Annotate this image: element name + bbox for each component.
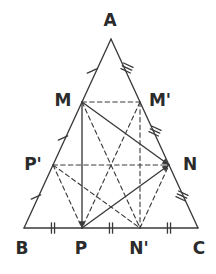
tick-Pprime-B-stroke xyxy=(31,195,40,199)
vertex-label-M-prime: M' xyxy=(149,92,171,109)
diagram-canvas xyxy=(0,0,216,274)
vertex-label-M: M xyxy=(55,92,72,109)
vertex-label-B: B xyxy=(16,240,29,257)
vertex-label-A: A xyxy=(103,12,116,29)
vertex-label-N: N xyxy=(183,156,197,173)
tick-N-C xyxy=(176,191,188,201)
vertex-label-C: C xyxy=(193,240,205,257)
vertex-label-P: P xyxy=(75,240,87,257)
segment-Pprime-Nprime xyxy=(53,165,140,228)
dashed-segments-layer xyxy=(53,102,169,228)
geometry-figure: A B C M M' N N' P P' xyxy=(0,0,216,274)
segment-Nprime-N xyxy=(140,165,169,228)
tick-Pprime-B xyxy=(31,195,40,199)
tick-Mprime-N xyxy=(149,126,161,136)
vertex-label-P-prime: P' xyxy=(24,156,42,173)
solid-segments-layer xyxy=(24,39,198,228)
vertex-label-N-prime: N' xyxy=(129,240,148,257)
tick-M-Pprime xyxy=(58,136,67,140)
tick-M-Pprime-stroke xyxy=(58,136,67,140)
side-AB xyxy=(24,39,111,228)
segment-Pprime-P xyxy=(53,165,82,228)
